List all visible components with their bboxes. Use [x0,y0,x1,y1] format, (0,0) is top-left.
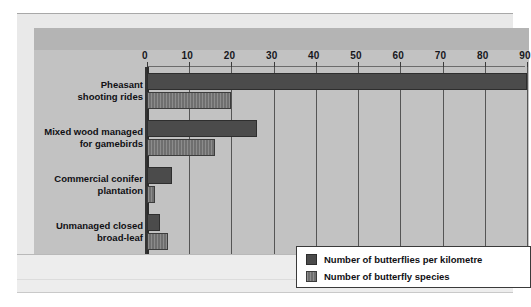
x-tick-label-70: 70 [435,50,447,61]
bar-species-3 [147,233,168,250]
gridline-90 [527,67,528,255]
margin-fragment-6 [0,83,14,95]
tickmark-20 [231,62,232,67]
margin-fragment-7 [0,95,14,107]
margin-fragment-14 [0,177,14,189]
margin-fragment-11 [0,142,14,154]
x-tick-label-30: 30 [266,50,278,61]
margin-fragment-1 [0,24,14,36]
x-axis-line [147,66,525,67]
category-label-line: Commercial conifer [40,173,143,185]
bar-butterflies-2 [147,167,172,184]
margin-fragment-16 [0,201,14,213]
tickmark-50 [358,62,359,67]
bar-butterflies-1 [147,120,257,137]
category-label-line: shooting rides [40,91,143,103]
category-label-2: Commercial coniferplantation [40,173,143,196]
bar-butterflies-0 [147,73,527,90]
gridline-60 [400,67,401,255]
category-label-line: Mixed wood managed [40,126,143,138]
tickmark-0 [147,62,148,67]
bar-species-2 [147,186,155,203]
margin-fragment-13 [0,165,14,177]
plot-area [145,67,525,255]
margin-fragment-5 [0,71,14,83]
margin-fragment-15 [0,189,14,201]
x-tick-label-60: 60 [393,50,405,61]
margin-fragment-2 [0,36,14,48]
tickmark-60 [400,62,401,67]
tickmark-90 [527,62,528,67]
category-label-line: Pheasant [40,79,143,91]
x-tick-label-40: 40 [308,50,320,61]
tickmark-70 [443,62,444,67]
margin-fragment-0 [0,12,14,24]
tickmark-40 [316,62,317,67]
legend-item-1: Number of butterfly species [306,269,530,284]
legend-label-1: Number of butterfly species [324,271,450,282]
category-label-3: Unmanaged closedbroad-leaf [40,220,143,243]
margin-fragment-21 [0,260,14,272]
gridline-70 [443,67,444,255]
bar-species-1 [147,139,215,156]
margin-fragment-18 [0,224,14,236]
x-tick-label-10: 10 [181,50,193,61]
gridline-80 [485,67,486,255]
margin-fragment-20 [0,248,14,260]
x-tick-label-80: 80 [477,50,489,61]
x-tick-label-90: 90 [519,50,531,61]
margin-fragment-8 [0,106,14,118]
category-label-1: Mixed wood managedfor gamebirds [40,126,143,149]
panel-top-band [34,28,529,50]
category-label-line: plantation [40,185,143,197]
tickmark-80 [485,62,486,67]
gridline-50 [358,67,359,255]
margin-fragment-3 [0,47,14,59]
margin-fragment-10 [0,130,14,142]
page-margin-text-fragments [0,12,14,304]
chart-legend: Number of butterflies per kilometreNumbe… [296,246,531,288]
category-label-line: Unmanaged closed [40,220,143,232]
x-axis-tick-labels: 0102030405060708090 [34,50,529,67]
page-top-text-fragment [74,0,334,9]
tickmark-30 [274,62,275,67]
category-label-line: for gamebirds [40,138,143,150]
margin-fragment-4 [0,59,14,71]
bar-species-0 [147,92,231,109]
gridline-40 [316,67,317,255]
tickmark-10 [189,62,190,67]
figure-container: 0102030405060708090 Pheasantshooting rid… [17,13,513,293]
margin-fragment-23 [0,283,14,295]
margin-fragment-19 [0,236,14,248]
x-tick-label-50: 50 [350,50,362,61]
gridline-20 [231,67,232,255]
margin-fragment-12 [0,154,14,166]
chart-panel: 0102030405060708090 Pheasantshooting rid… [34,28,529,256]
legend-label-0: Number of butterflies per kilometre [324,254,482,265]
margin-fragment-9 [0,118,14,130]
gridline-30 [274,67,275,255]
legend-swatch-0 [306,254,317,265]
x-tick-label-20: 20 [224,50,236,61]
y-axis-category-labels: Pheasantshooting ridesMixed wood managed… [34,67,143,255]
plot-inner [145,67,525,255]
category-label-0: Pheasantshooting rides [40,79,143,102]
margin-fragment-22 [0,272,14,284]
bar-butterflies-3 [147,214,160,231]
legend-swatch-1 [306,271,317,282]
x-tick-label-0: 0 [142,50,148,61]
category-label-line: broad-leaf [40,232,143,244]
legend-item-0: Number of butterflies per kilometre [306,252,530,267]
margin-fragment-17 [0,213,14,225]
